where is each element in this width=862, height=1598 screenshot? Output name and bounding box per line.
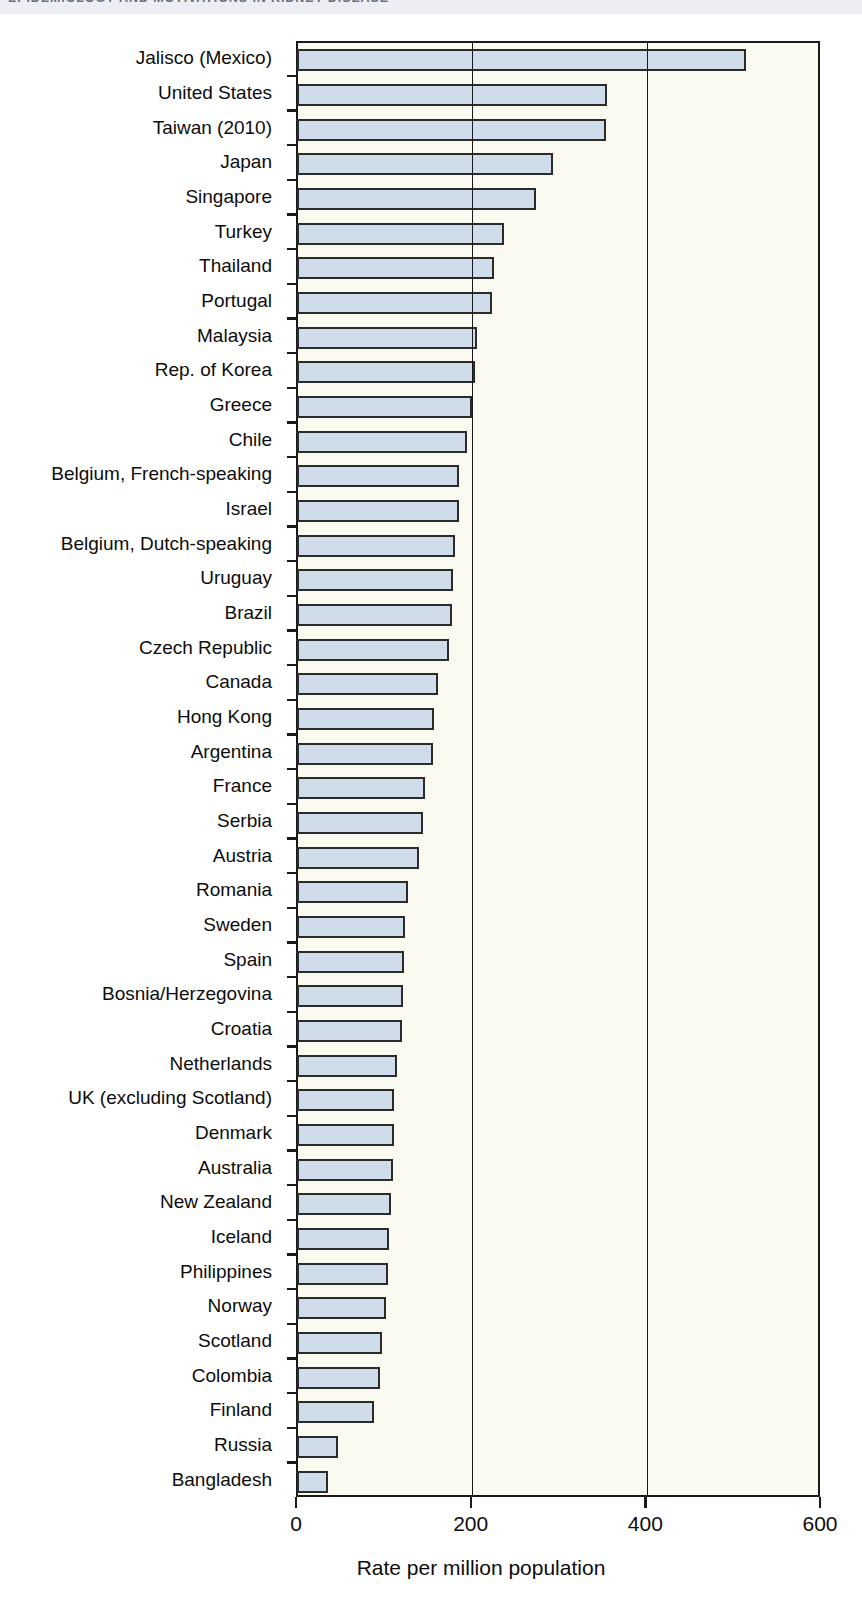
x-axis-title-text: Rate per million population (357, 1556, 606, 1579)
x-axis-title: Rate per million population (0, 1556, 862, 1580)
x-axis-tick-label: 0 (290, 1512, 302, 1536)
x-axis-tick-0 (295, 1497, 297, 1508)
x-axis-tick-label: 400 (628, 1512, 663, 1536)
x-axis-tick-label: 600 (802, 1512, 837, 1536)
x-axis-tick-200 (470, 1497, 472, 1508)
horizontal-bar-chart: Jalisco (Mexico)United StatesTaiwan (201… (0, 0, 862, 1598)
x-axis-tick-label: 200 (453, 1512, 488, 1536)
x-axis: 0200400600 (0, 0, 862, 1598)
x-axis-tick-600 (819, 1497, 821, 1508)
x-axis-tick-400 (644, 1497, 646, 1508)
